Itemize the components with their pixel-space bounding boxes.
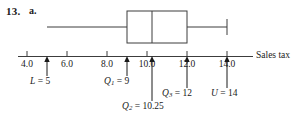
annotation-value: 10.25	[142, 101, 163, 111]
axis-tick-label-12: 12.0	[173, 59, 201, 69]
annotation-symbol: Q	[104, 76, 111, 86]
box-rect	[127, 11, 187, 43]
annotation-first-quartile: Q1 = 9	[104, 76, 129, 86]
annotation-lower-extreme: L = 5	[30, 76, 50, 86]
annotation-subscript: 2	[129, 104, 132, 111]
axis-tick-label-8: 8.0	[93, 59, 121, 69]
annotation-value: 5	[45, 76, 50, 86]
arrow-first-quartile	[124, 56, 129, 76]
annotation-equals: =	[135, 101, 140, 111]
annotation-symbol: Q	[122, 101, 129, 111]
annotation-equals: =	[220, 88, 225, 98]
axis-title-sales-tax: Sales tax	[256, 50, 290, 60]
annotation-symbol: U	[211, 88, 218, 98]
annotation-upper-extreme: U = 14	[211, 88, 237, 98]
annotation-third-quartile: Q3 = 12	[162, 88, 192, 98]
annotation-value: 12	[182, 88, 192, 98]
annotation-median: Q2 = 10.25	[122, 101, 164, 111]
annotation-equals: =	[175, 88, 180, 98]
axis-tick-label-4: 4.0	[13, 59, 41, 69]
annotation-symbol: Q	[162, 88, 169, 98]
arrow-lower-extreme	[44, 56, 49, 76]
axis-tick-label-14: 14.0	[213, 59, 241, 69]
annotation-value: 14	[228, 88, 238, 98]
annotation-value: 9	[124, 76, 129, 86]
boxplot-figure: 13. a.	[0, 0, 302, 124]
axis-tick-label-6: 6.0	[53, 59, 81, 69]
annotation-equals: =	[38, 76, 43, 86]
axis-tick-label-10: 10.0	[133, 59, 161, 69]
annotation-subscript: 3	[169, 91, 172, 98]
annotation-subscript: 1	[111, 79, 114, 86]
annotation-equals: =	[117, 76, 122, 86]
